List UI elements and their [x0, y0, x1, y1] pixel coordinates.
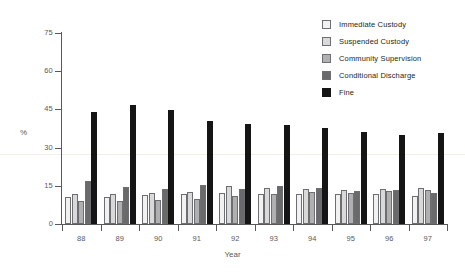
x-tick-label: 92 [215, 234, 255, 243]
y-tick [55, 71, 62, 72]
bar [348, 193, 354, 224]
x-tick [216, 225, 217, 231]
legend-label: Suspended Custody [339, 37, 409, 46]
bar [219, 193, 225, 224]
legend-item[interactable]: Immediate Custody [322, 16, 462, 33]
x-tick [101, 225, 102, 231]
y-tick-label: 60 [44, 66, 53, 75]
bar [431, 193, 437, 224]
bar [110, 194, 116, 224]
y-tick [55, 109, 62, 110]
bar [264, 188, 270, 224]
bar [142, 195, 148, 224]
legend-swatch-icon [322, 88, 331, 97]
bar [277, 186, 283, 224]
x-tick [139, 225, 140, 231]
bar [65, 197, 71, 224]
bar [258, 194, 264, 224]
legend-swatch-icon [322, 20, 331, 29]
legend-swatch-icon [322, 71, 331, 80]
legend-swatch-icon [322, 37, 331, 46]
y-tick [55, 148, 62, 149]
bar [284, 125, 290, 224]
legend-item[interactable]: Fine [322, 84, 462, 101]
y-tick [55, 186, 62, 187]
bar [207, 121, 213, 224]
bar [322, 128, 328, 224]
x-tick [447, 225, 448, 231]
legend-label: Conditional Discharge [339, 71, 416, 80]
bar [335, 194, 341, 224]
x-tick-label: 90 [138, 234, 178, 243]
x-tick-label: 93 [254, 234, 294, 243]
x-tick-label: 96 [369, 234, 409, 243]
bar [78, 201, 84, 224]
legend-item[interactable]: Conditional Discharge [322, 67, 462, 84]
y-tick-label: 45 [44, 104, 53, 113]
x-tick-label: 95 [331, 234, 371, 243]
x-tick [62, 225, 63, 231]
y-tick-label: 75 [44, 28, 53, 37]
bar [85, 181, 91, 224]
bar [399, 135, 405, 224]
bar [303, 189, 309, 224]
bar [187, 192, 193, 224]
legend-swatch-icon [322, 54, 331, 63]
bar [155, 200, 161, 224]
x-tick-label: 88 [61, 234, 101, 243]
chart-figure: % Year 01530456075 88899091929394959697 … [0, 0, 465, 278]
bar [226, 186, 232, 224]
bar [162, 189, 168, 224]
bar [386, 191, 392, 224]
x-tick-label: 89 [100, 234, 140, 243]
x-tick [409, 225, 410, 231]
bar [354, 191, 360, 224]
bar [425, 190, 431, 224]
y-axis-label: % [20, 128, 27, 137]
bar [361, 132, 367, 224]
bar [309, 192, 315, 224]
bar [438, 133, 444, 224]
bar [380, 189, 386, 224]
bar [296, 194, 302, 224]
x-tick [178, 225, 179, 231]
y-tick [55, 224, 62, 225]
bar [104, 197, 110, 224]
bar [245, 124, 251, 224]
bar [149, 193, 155, 224]
bar [194, 199, 200, 224]
x-tick [293, 225, 294, 231]
bar [412, 196, 418, 224]
bar [91, 112, 97, 224]
legend-label: Community Supervision [339, 54, 421, 63]
bar [232, 196, 238, 224]
x-tick [370, 225, 371, 231]
bar [271, 194, 277, 224]
legend-item[interactable]: Suspended Custody [322, 33, 462, 50]
y-tick-label: 15 [44, 181, 53, 190]
x-tick-label: 94 [292, 234, 332, 243]
y-tick-label: 30 [44, 143, 53, 152]
legend-item[interactable]: Community Supervision [322, 50, 462, 67]
bar [168, 110, 174, 224]
bar [341, 190, 347, 224]
x-tick-label: 97 [408, 234, 448, 243]
bar [418, 188, 424, 224]
bar [130, 105, 136, 224]
bar [316, 188, 322, 224]
bar [200, 185, 206, 224]
bar [123, 187, 129, 224]
legend-label: Immediate Custody [339, 20, 406, 29]
x-tick [255, 225, 256, 231]
y-tick-label: 0 [49, 219, 53, 228]
bar [72, 194, 78, 224]
bar [373, 194, 379, 224]
bar [239, 189, 245, 224]
bar [393, 190, 399, 224]
legend-label: Fine [339, 88, 354, 97]
chart-legend: Immediate CustodySuspended CustodyCommun… [322, 16, 462, 101]
x-tick-label: 91 [177, 234, 217, 243]
y-tick [55, 33, 62, 34]
x-tick [332, 225, 333, 231]
bar [117, 201, 123, 224]
